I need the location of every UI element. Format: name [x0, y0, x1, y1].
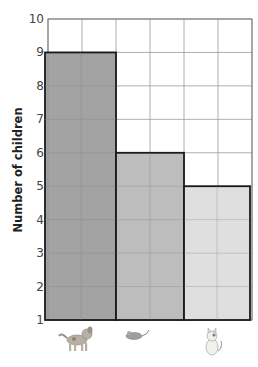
y-tick-label: 4	[36, 213, 44, 227]
y-tick-label: 5	[36, 179, 44, 193]
y-tick-label: 1	[36, 313, 44, 327]
y-tick-label: 10	[29, 12, 44, 26]
y-tick-label: 9	[36, 45, 44, 59]
y-tick-label: 8	[36, 79, 44, 93]
category-icons	[59, 327, 222, 356]
y-ticks: 12345678910	[29, 12, 44, 327]
y-axis-label: Number of children	[11, 107, 25, 232]
mouse-icon	[126, 330, 149, 340]
cat-icon	[206, 328, 222, 355]
dog-icon	[59, 327, 93, 352]
y-tick-label: 2	[36, 280, 44, 294]
y-tick-label: 7	[36, 112, 44, 126]
bar-chart: 12345678910 Number of children	[0, 0, 258, 367]
y-tick-label: 3	[36, 246, 44, 260]
bars	[45, 52, 250, 320]
y-tick-label: 6	[36, 146, 44, 160]
